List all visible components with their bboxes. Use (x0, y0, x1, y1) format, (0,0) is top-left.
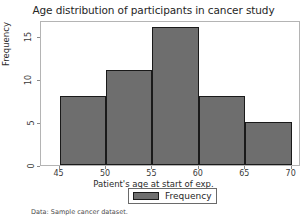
plot-area (40, 21, 300, 166)
histogram-bar (152, 27, 198, 165)
chart-title: Age distribution of participants in canc… (0, 4, 307, 17)
x-tick-label: 60 (193, 169, 203, 178)
x-tick-label: 50 (100, 169, 110, 178)
x-tick-label: 55 (146, 169, 156, 178)
bars-container (41, 22, 299, 165)
chart-figure: Age distribution of participants in canc… (0, 0, 307, 224)
y-tick-mark (37, 166, 40, 167)
histogram-bar (60, 96, 106, 165)
histogram-bar (199, 96, 245, 165)
chart-legend[interactable]: Frequency (128, 188, 217, 204)
y-tick-label: 15 (0, 33, 34, 41)
chart-footnote: Data: Sample cancer dataset. (31, 208, 128, 216)
histogram-bar (245, 122, 291, 165)
y-axis-label: Frequency (2, 22, 11, 66)
x-tick-label: 70 (286, 169, 296, 178)
histogram-bar (106, 70, 152, 165)
x-tick-label: 65 (239, 169, 249, 178)
legend-label-frequency: Frequency (165, 191, 212, 201)
y-tick-label: 10 (0, 76, 34, 84)
x-tick-label: 45 (53, 169, 63, 178)
y-tick-label: 5 (0, 119, 34, 127)
legend-swatch-frequency (133, 192, 159, 200)
y-tick-label: 0 (0, 162, 34, 170)
